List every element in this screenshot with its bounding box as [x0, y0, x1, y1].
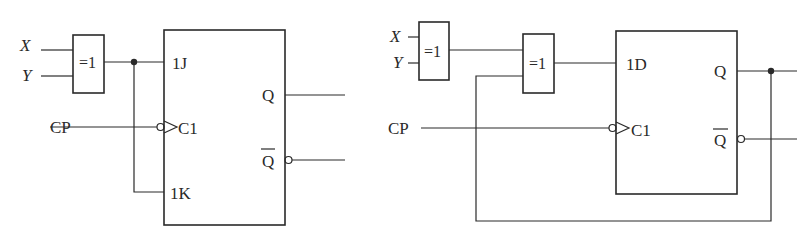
output-q-label: Q: [262, 86, 274, 105]
xor-gate-2-label: =1: [529, 55, 546, 72]
xor-gate-1-label: =1: [424, 43, 441, 60]
xor-gate-label: =1: [79, 54, 96, 71]
pin-1j-label: 1J: [172, 54, 188, 73]
output-qbar-label: Q: [714, 131, 726, 150]
clock-inversion-bubble: [157, 124, 164, 131]
pin-1k-label: 1K: [170, 184, 192, 203]
qbar-inversion-bubble: [738, 136, 745, 143]
circuit-b: X Y =1 =1 1D C1 CP Q Q: [388, 22, 797, 221]
circuit-diagram: X Y =1 1J C1 1K CP Q Q X Y =1 =1: [0, 0, 808, 243]
pin-c1-label: C1: [631, 121, 651, 140]
input-x-label: X: [389, 27, 401, 46]
input-y-label: Y: [393, 53, 404, 72]
pin-1d-label: 1D: [626, 55, 647, 74]
input-y-label: Y: [22, 66, 33, 85]
output-qbar-label: Q: [262, 152, 274, 171]
circuit-a: X Y =1 1J C1 1K CP Q Q: [19, 30, 345, 225]
input-x-label: X: [19, 36, 31, 55]
qbar-inversion-bubble: [285, 157, 292, 164]
clock-inversion-bubble: [609, 125, 616, 132]
pin-c1-label: C1: [178, 119, 198, 138]
output-q-label: Q: [714, 62, 726, 81]
clock-cp-label: CP: [388, 119, 409, 138]
